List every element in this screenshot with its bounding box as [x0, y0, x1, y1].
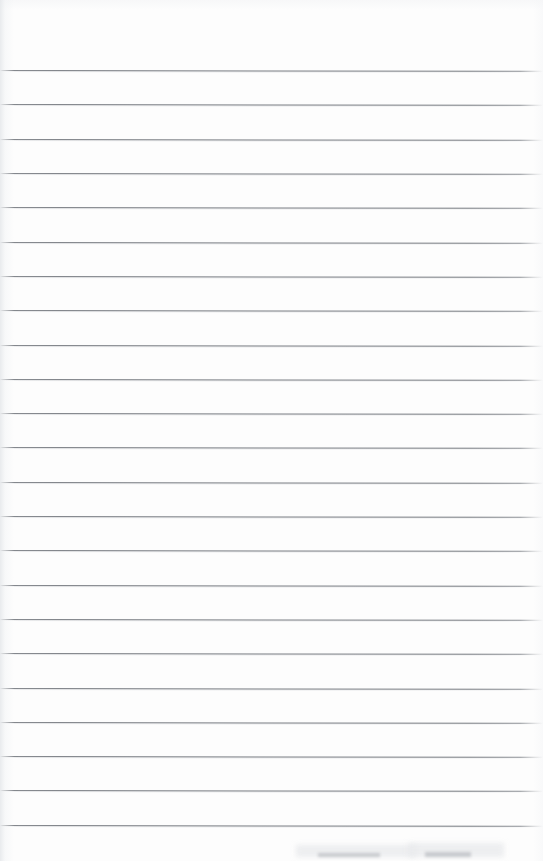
paper-background — [0, 0, 543, 861]
scanned-page — [0, 0, 543, 861]
